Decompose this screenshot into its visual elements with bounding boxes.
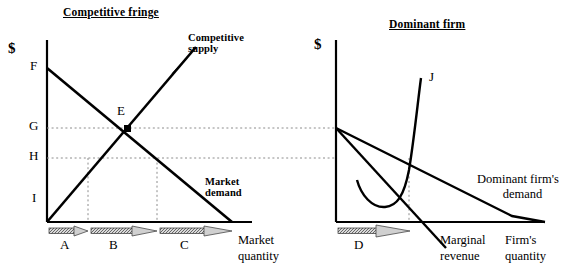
segment-arrow-c — [160, 226, 232, 236]
marginal-revenue-label-line1: Marginal — [440, 234, 486, 248]
right-x-axis-caption-line1: Firm's — [505, 234, 536, 248]
economics-diagram: Competitive fringe $ F G H I E Competiti… — [0, 0, 573, 276]
left-currency-symbol: $ — [8, 40, 16, 56]
competitive-supply-curve — [47, 47, 196, 222]
right-x-axis-caption-line2: quantity — [505, 250, 546, 264]
left-x-axis-caption-line2: quantity — [238, 250, 279, 264]
price-guide-lines — [47, 128, 336, 222]
marginal-cost-label-j: J — [429, 70, 434, 84]
left-x-axis-caption-line1: Market — [238, 234, 274, 248]
left-axis-label-f: F — [30, 59, 37, 73]
market-demand-label: Market demand — [205, 176, 263, 199]
segment-label-b: B — [109, 238, 118, 252]
segment-label-c: C — [180, 238, 189, 252]
equilibrium-point-label: E — [117, 104, 125, 118]
market-demand-curve — [47, 68, 232, 222]
segment-arrow-a — [49, 226, 88, 236]
dominant-firm-demand-label-line1: Dominant firm's — [477, 173, 559, 187]
equilibrium-point-marker — [124, 125, 131, 132]
diagram-canvas — [0, 0, 573, 276]
left-segment-arrows — [49, 226, 232, 236]
segment-arrow-b — [91, 226, 157, 236]
left-axis-label-g: G — [29, 119, 38, 133]
segment-label-a: A — [60, 238, 69, 252]
right-currency-symbol: $ — [314, 36, 322, 52]
left-axis-label-i: I — [32, 191, 36, 205]
left-axis-label-h: H — [29, 149, 38, 163]
dominant-firm-demand-label-line2: demand — [477, 188, 568, 202]
segment-arrow-d — [338, 225, 410, 237]
left-panel-title: Competitive fringe — [63, 6, 159, 18]
right-panel-title: Dominant firm — [389, 18, 465, 30]
segment-label-d: D — [354, 238, 363, 252]
competitive-supply-leader-line — [172, 59, 186, 74]
competitive-supply-label: Competitive supply — [188, 32, 260, 55]
marginal-revenue-label-line2: revenue — [440, 250, 480, 264]
